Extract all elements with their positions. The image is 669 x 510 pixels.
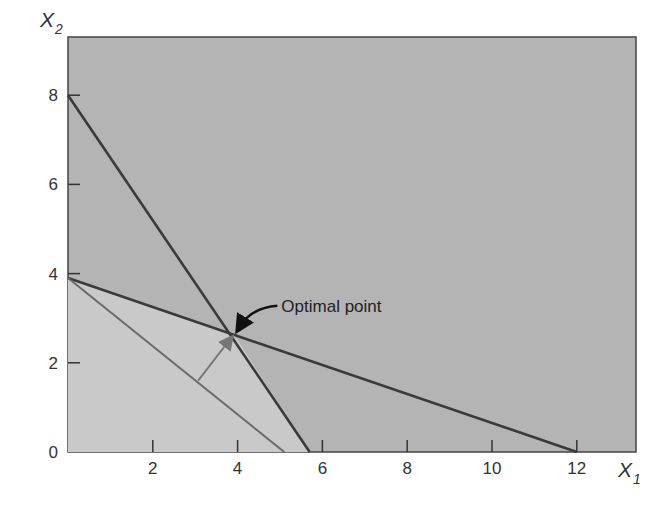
x-axis-label: X1 <box>617 458 641 487</box>
x-tick-label: 8 <box>402 459 411 478</box>
x-tick-label: 2 <box>148 459 157 478</box>
y-axis-label: X2 <box>39 8 63 37</box>
optimal-point-label: Optimal point <box>281 297 381 316</box>
x-tick-label: 4 <box>233 459 242 478</box>
chart: Optimal point 24681012 02468 X2 X1 <box>0 0 669 510</box>
y-tick-label: 0 <box>49 443 58 462</box>
y-tick-label: 4 <box>49 265 58 284</box>
x-tick-label: 6 <box>318 459 327 478</box>
y-tick-label: 6 <box>49 175 58 194</box>
x-tick-label: 12 <box>567 459 586 478</box>
y-tick-label: 8 <box>49 86 58 105</box>
x-tick-label: 10 <box>483 459 502 478</box>
y-tick-label: 2 <box>49 354 58 373</box>
